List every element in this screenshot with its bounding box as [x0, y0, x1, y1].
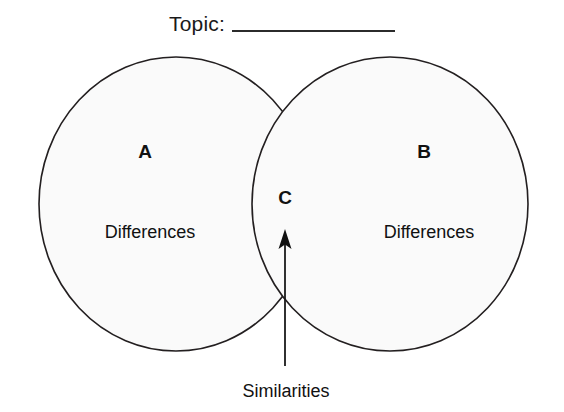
intersection-c-letter: C	[278, 187, 292, 209]
set-b-letter: B	[417, 141, 431, 163]
circle-set-b[interactable]	[252, 57, 528, 351]
set-a-differences-label: Differences	[105, 222, 196, 243]
similarities-callout-label: Similarities	[242, 381, 329, 402]
set-a-letter: A	[138, 141, 152, 163]
set-b-differences-label: Differences	[384, 222, 475, 243]
venn-diagram-page: Topic: A B C Differences Differences Sim…	[0, 0, 564, 412]
